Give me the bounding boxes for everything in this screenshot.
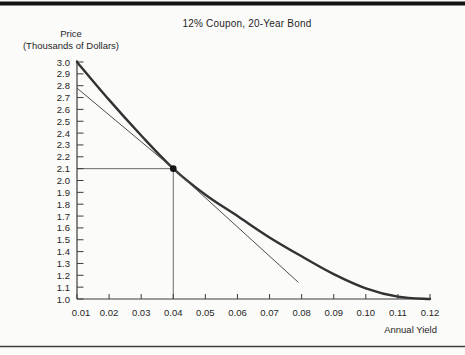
y-tick-label: 2.6	[57, 104, 70, 115]
y-axis-title-line2: (Thousands of Dollars)	[23, 40, 119, 51]
x-tick-label: 0.08	[292, 307, 311, 318]
x-tick-label: 0.11	[389, 307, 407, 318]
x-tick-label: 0.03	[132, 307, 151, 318]
x-tick-label: 0.02	[100, 307, 119, 318]
y-tick-label: 2.9	[57, 68, 70, 79]
x-axis-title: Annual Yield	[384, 324, 437, 335]
y-tick-label: 2.1	[57, 163, 70, 174]
y-tick-label: 2.7	[57, 92, 70, 103]
x-tick-label: 0.01	[72, 307, 91, 318]
price-yield-chart: 12% Coupon, 20-Year Bond Price (Thousand…	[0, 0, 465, 355]
y-tick-label: 1.5	[57, 234, 70, 245]
y-tick-label: 2.5	[57, 116, 70, 127]
y-tick-label: 1.0	[57, 294, 70, 305]
y-tick-label: 3.0	[57, 57, 70, 68]
x-tick-label: 0.09	[324, 307, 343, 318]
x-tick-label: 0.06	[228, 307, 247, 318]
y-tick-label: 2.0	[57, 175, 70, 186]
top-rule	[0, 2, 465, 6]
x-tick-label: 0.07	[260, 307, 279, 318]
y-tick-label: 2.4	[57, 128, 70, 139]
y-tick-label: 1.7	[57, 211, 70, 222]
x-tick-label: 0.10	[357, 307, 376, 318]
y-tick-label: 2.8	[57, 80, 70, 91]
y-axis-title-line1: Price	[60, 28, 82, 39]
marked-point-dot	[170, 165, 177, 172]
y-tick-label: 1.3	[57, 258, 70, 269]
y-tick-label: 1.2	[57, 270, 70, 281]
price-yield-curve	[77, 62, 430, 299]
y-tick-label: 1.8	[57, 199, 70, 210]
chart-title: 12% Coupon, 20-Year Bond	[183, 18, 312, 29]
y-tick-label: 1.4	[57, 246, 70, 257]
bond-price-yield-figure: 12% Coupon, 20-Year Bond Price (Thousand…	[0, 0, 465, 355]
y-tick-label: 1.9	[57, 187, 70, 198]
x-tick-label: 0.05	[196, 307, 215, 318]
x-tick-label: 0.04	[164, 307, 183, 318]
y-tick-label: 2.3	[57, 139, 70, 150]
y-tick-label: 2.2	[57, 151, 70, 162]
x-tick-label: 0.12	[421, 307, 440, 318]
y-tick-label: 1.6	[57, 222, 70, 233]
y-tick-label: 1.1	[57, 282, 70, 293]
plot-area: 3.02.92.82.72.62.52.42.32.22.12.01.91.81…	[57, 57, 439, 318]
tangent-line	[77, 88, 298, 282]
